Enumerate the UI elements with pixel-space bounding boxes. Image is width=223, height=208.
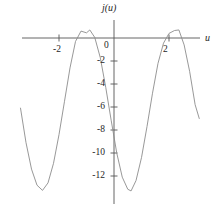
function-graph-figure: j(u) u 0 -22 -2-4-6-8-10-12 — [0, 0, 223, 208]
x-axis-label: u — [205, 33, 210, 43]
function-curve — [21, 30, 200, 191]
y-tick-label: -8 — [84, 125, 105, 135]
y-tick-label: -2 — [84, 56, 105, 66]
y-tick-label: -12 — [84, 171, 105, 181]
y-tick-label: -4 — [84, 79, 105, 89]
y-tick-label: -6 — [84, 102, 105, 112]
x-tick-label: 2 — [163, 45, 168, 55]
origin-label: 0 — [104, 41, 109, 51]
y-tick-label: -10 — [84, 148, 105, 158]
plot-canvas — [0, 0, 223, 208]
y-axis-label: j(u) — [102, 3, 116, 13]
x-tick-label: -2 — [53, 45, 61, 55]
